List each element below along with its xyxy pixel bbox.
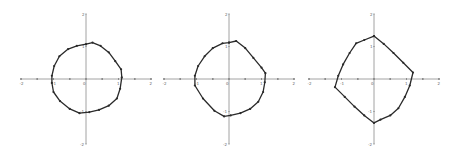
data-point-marker xyxy=(221,42,223,44)
x-tick-label: 2 xyxy=(438,81,441,86)
chart-panel-1: -2-1012-2-112 xyxy=(20,12,153,147)
x-tick-label: 1 xyxy=(117,81,120,86)
data-point-marker xyxy=(223,115,225,117)
x-tick-label: -1 xyxy=(340,81,344,86)
data-point-marker xyxy=(194,84,196,86)
data-point-marker xyxy=(100,45,102,47)
data-point-marker xyxy=(409,84,411,86)
data-point-marker xyxy=(244,47,246,49)
figure: -2-1012-2-112-2-1012-2-112-2-1012-2-112 xyxy=(0,0,455,156)
data-point-marker xyxy=(363,114,365,116)
x-tick-label: 0 xyxy=(226,81,229,86)
y-tick-label: -2 xyxy=(223,142,227,147)
data-point-marker xyxy=(230,114,232,116)
data-point-marker xyxy=(239,112,241,114)
data-point-marker xyxy=(257,101,259,103)
data-point-marker xyxy=(412,71,414,73)
data-point-marker xyxy=(194,75,196,77)
data-point-marker xyxy=(213,110,215,112)
y-tick-label: 2 xyxy=(225,12,228,17)
chart-panel-3: -2-1012-2-112 xyxy=(308,12,441,147)
data-point-marker xyxy=(264,72,266,74)
y-tick-label: 1 xyxy=(225,44,228,49)
data-point-marker xyxy=(53,65,55,67)
y-tick-label: 2 xyxy=(82,12,85,17)
data-point-marker xyxy=(116,97,118,99)
x-tick-label: 0 xyxy=(83,81,86,86)
plots-canvas: -2-1012-2-112-2-1012-2-112-2-1012-2-112 xyxy=(0,0,455,156)
x-tick-label: 0 xyxy=(371,81,374,86)
y-tick-label: -2 xyxy=(368,142,372,147)
data-point-marker xyxy=(379,119,381,121)
data-point-marker xyxy=(355,42,357,44)
data-point-marker xyxy=(108,51,110,53)
data-point-marker xyxy=(204,55,206,57)
data-point-marker xyxy=(235,40,237,42)
data-point-marker xyxy=(114,60,116,62)
data-point-marker xyxy=(349,52,351,54)
x-tick-label: 1 xyxy=(260,81,263,86)
data-point-marker xyxy=(85,43,87,45)
x-tick-label: -2 xyxy=(308,81,312,86)
data-point-marker xyxy=(88,111,90,113)
data-point-marker xyxy=(212,47,214,49)
data-point-marker xyxy=(337,75,339,77)
data-point-marker xyxy=(249,108,251,110)
data-point-marker xyxy=(52,91,54,93)
data-point-marker xyxy=(383,43,385,45)
data-point-marker xyxy=(202,97,204,99)
data-point-marker xyxy=(402,62,404,64)
data-point-marker xyxy=(344,96,346,98)
x-tick-label: 1 xyxy=(405,81,408,86)
data-point-marker xyxy=(397,107,399,109)
chart-panel-2: -2-1012-2-112 xyxy=(163,12,296,147)
data-point-marker xyxy=(197,65,199,67)
data-point-marker xyxy=(342,63,344,65)
data-point-marker xyxy=(363,39,365,41)
x-tick-label: -2 xyxy=(20,81,24,86)
data-point-marker xyxy=(91,42,93,44)
x-tick-label: -2 xyxy=(163,81,167,86)
data-point-marker xyxy=(373,35,375,37)
data-point-marker xyxy=(353,106,355,108)
data-point-marker xyxy=(78,112,80,114)
data-point-marker xyxy=(228,42,230,44)
data-point-marker xyxy=(121,76,123,78)
y-tick-label: 2 xyxy=(370,12,373,17)
data-point-marker xyxy=(76,45,78,47)
y-tick-label: 1 xyxy=(370,44,373,49)
data-point-marker xyxy=(51,82,53,84)
data-point-marker xyxy=(51,75,53,77)
data-point-marker xyxy=(373,122,375,124)
data-point-marker xyxy=(389,114,391,116)
data-point-marker xyxy=(260,67,262,69)
data-point-marker xyxy=(264,81,266,83)
x-tick-label: 2 xyxy=(150,81,153,86)
data-point-marker xyxy=(252,57,254,59)
x-tick-label: 2 xyxy=(293,81,296,86)
y-tick-label: -1 xyxy=(223,109,227,114)
data-point-marker xyxy=(119,88,121,90)
data-point-marker xyxy=(392,52,394,54)
data-point-marker xyxy=(59,100,61,102)
data-point-marker xyxy=(58,55,60,57)
data-point-marker xyxy=(98,109,100,111)
data-point-marker xyxy=(404,96,406,98)
y-tick-label: -2 xyxy=(80,142,84,147)
data-point-marker xyxy=(108,105,110,107)
data-point-marker xyxy=(120,68,122,70)
data-point-marker xyxy=(67,48,69,50)
closed-curve-line xyxy=(52,43,122,114)
data-point-marker xyxy=(262,91,264,93)
data-point-marker xyxy=(69,108,71,110)
data-point-marker xyxy=(334,86,336,88)
y-tick-label: -1 xyxy=(368,109,372,114)
